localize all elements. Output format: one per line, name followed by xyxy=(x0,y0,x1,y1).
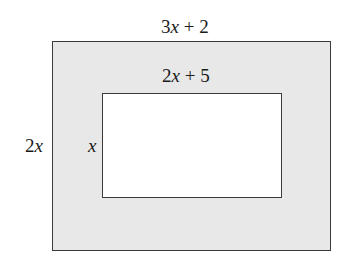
inner-height-label: x xyxy=(88,136,96,155)
inner-width-label: 2x + 5 xyxy=(162,66,210,85)
outer-height-label: 2x xyxy=(25,136,43,155)
outer-width-label: 3x + 2 xyxy=(161,17,209,36)
inner-rectangle xyxy=(102,93,282,198)
